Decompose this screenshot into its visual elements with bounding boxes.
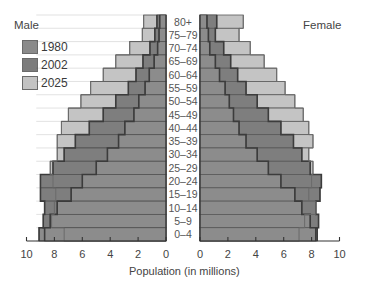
male-bar-1980 <box>107 148 166 161</box>
age-group-label: 80+ <box>163 16 203 28</box>
male-bar-1980 <box>139 95 166 108</box>
male-x-tick-label: 2 <box>128 248 148 260</box>
female-x-tick-label: 6 <box>274 248 294 260</box>
female-bar-1980 <box>200 148 257 161</box>
male-bar-1980 <box>39 228 166 241</box>
female-x-tick-label: 10 <box>330 248 350 260</box>
male-bar-1980 <box>134 108 166 121</box>
female-bar-1980 <box>200 214 310 227</box>
age-group-label: 10–14 <box>163 202 203 214</box>
age-group-label: 0–4 <box>163 228 203 240</box>
male-bar-1980 <box>119 135 166 148</box>
female-bar-1980 <box>200 201 302 214</box>
age-group-label: 60–64 <box>163 69 203 81</box>
age-group-label: 65–69 <box>163 55 203 67</box>
female-x-tick-label: 2 <box>218 248 238 260</box>
age-group-label: 25–29 <box>163 162 203 174</box>
male-x-tick-label: 10 <box>17 248 37 260</box>
female-x-tick-label: 4 <box>246 248 266 260</box>
male-x-tick-label: 6 <box>72 248 92 260</box>
age-group-label: 40–44 <box>163 122 203 134</box>
male-bar-1980 <box>125 121 166 134</box>
male-bar-1980 <box>50 214 166 227</box>
female-bar-1980 <box>200 135 246 148</box>
age-group-label: 30–34 <box>163 148 203 160</box>
female-bar-1980 <box>200 121 239 134</box>
age-group-label: 15–19 <box>163 188 203 200</box>
male-x-tick-label: 0 <box>156 248 176 260</box>
female-bar-1980 <box>200 188 295 201</box>
male-bar-1980 <box>82 175 166 188</box>
female-x-tick-label: 0 <box>190 248 210 260</box>
age-group-label: 35–39 <box>163 135 203 147</box>
age-group-label: 45–49 <box>163 109 203 121</box>
male-bar-1980 <box>57 201 166 214</box>
age-group-label: 70–74 <box>163 42 203 54</box>
age-group-label: 5–9 <box>163 215 203 227</box>
female-bar-1980 <box>200 81 225 94</box>
female-bar-1980 <box>200 161 268 174</box>
male-x-tick-label: 4 <box>100 248 120 260</box>
age-group-label: 55–59 <box>163 82 203 94</box>
female-bar-1980 <box>200 228 317 241</box>
female-x-tick-label: 8 <box>302 248 322 260</box>
female-bar-1980 <box>200 95 229 108</box>
female-bar-1980 <box>200 108 233 121</box>
x-axis-title: Population (in millions) <box>129 265 240 277</box>
female-bar-1980 <box>200 175 281 188</box>
male-x-tick-label: 8 <box>44 248 64 260</box>
male-bar-1980 <box>96 161 166 174</box>
male-bar-1980 <box>71 188 166 201</box>
age-group-label: 50–54 <box>163 95 203 107</box>
age-group-label: 75–79 <box>163 29 203 41</box>
age-group-label: 20–24 <box>163 175 203 187</box>
